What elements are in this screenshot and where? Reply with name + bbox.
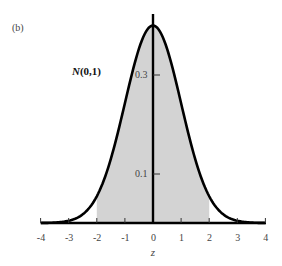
x-tick-label: 3 bbox=[235, 232, 240, 243]
x-tick-label: 0 bbox=[151, 232, 156, 243]
x-tick-label: -4 bbox=[37, 232, 45, 243]
y-tick-label-0.1: 0.1 bbox=[135, 168, 148, 179]
dist-symbol: N bbox=[72, 65, 80, 77]
dist-params: (0,1) bbox=[80, 65, 101, 77]
x-tick-label: -3 bbox=[65, 232, 73, 243]
panel-label: (b) bbox=[12, 22, 24, 33]
chart-canvas bbox=[0, 0, 282, 266]
x-tick-label: -2 bbox=[93, 232, 101, 243]
x-axis-label: z bbox=[151, 246, 155, 258]
y-tick-label-0.3: 0.3 bbox=[135, 69, 148, 80]
x-tick-label: -1 bbox=[121, 232, 129, 243]
x-tick-label: 2 bbox=[207, 232, 212, 243]
x-tick-label: 4 bbox=[263, 232, 268, 243]
x-tick-label: 1 bbox=[179, 232, 184, 243]
distribution-annotation: N(0,1) bbox=[72, 65, 101, 77]
